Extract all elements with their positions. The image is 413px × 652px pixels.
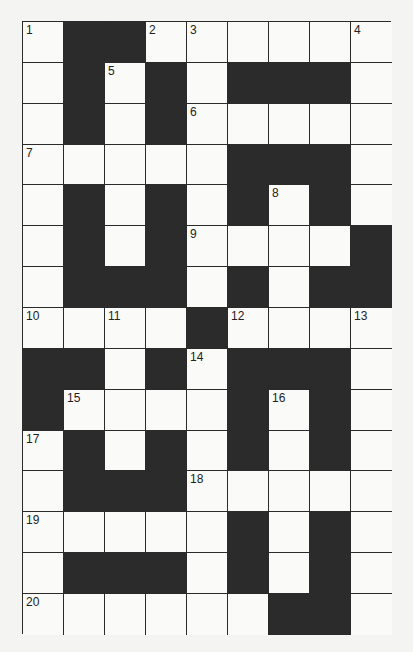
clue-number: 18 bbox=[190, 473, 203, 485]
answer-cell[interactable] bbox=[269, 553, 310, 594]
answer-cell[interactable] bbox=[228, 226, 269, 267]
answer-cell[interactable] bbox=[105, 349, 146, 390]
answer-cell[interactable] bbox=[187, 185, 228, 226]
answer-cell[interactable] bbox=[23, 553, 64, 594]
answer-cell[interactable]: 2 bbox=[146, 22, 187, 63]
answer-cell[interactable] bbox=[187, 63, 228, 104]
answer-cell[interactable] bbox=[351, 594, 392, 635]
answer-cell[interactable] bbox=[23, 104, 64, 145]
answer-cell[interactable] bbox=[228, 104, 269, 145]
clue-number: 17 bbox=[26, 433, 39, 445]
answer-cell[interactable]: 11 bbox=[105, 308, 146, 349]
answer-cell[interactable] bbox=[105, 390, 146, 431]
answer-cell[interactable] bbox=[105, 104, 146, 145]
answer-cell[interactable] bbox=[351, 63, 392, 104]
answer-cell[interactable] bbox=[187, 145, 228, 186]
answer-cell[interactable] bbox=[310, 471, 351, 512]
answer-cell[interactable] bbox=[64, 145, 105, 186]
black-cell bbox=[310, 431, 351, 472]
answer-cell[interactable]: 6 bbox=[187, 104, 228, 145]
answer-cell[interactable] bbox=[269, 512, 310, 553]
answer-cell[interactable] bbox=[310, 308, 351, 349]
answer-cell[interactable] bbox=[187, 267, 228, 308]
black-cell bbox=[187, 308, 228, 349]
answer-cell[interactable]: 12 bbox=[228, 308, 269, 349]
answer-cell[interactable] bbox=[351, 145, 392, 186]
answer-cell[interactable] bbox=[23, 226, 64, 267]
answer-cell[interactable] bbox=[146, 308, 187, 349]
answer-cell[interactable]: 14 bbox=[187, 349, 228, 390]
answer-cell[interactable]: 4 bbox=[351, 22, 392, 63]
answer-cell[interactable]: 17 bbox=[23, 431, 64, 472]
answer-cell[interactable] bbox=[310, 226, 351, 267]
answer-cell[interactable] bbox=[105, 512, 146, 553]
clue-number: 11 bbox=[108, 310, 120, 322]
black-cell bbox=[310, 145, 351, 186]
answer-cell[interactable] bbox=[228, 22, 269, 63]
answer-cell[interactable] bbox=[146, 594, 187, 635]
answer-cell[interactable] bbox=[269, 104, 310, 145]
answer-cell[interactable] bbox=[105, 185, 146, 226]
answer-cell[interactable] bbox=[351, 471, 392, 512]
answer-cell[interactable] bbox=[146, 390, 187, 431]
answer-cell[interactable]: 10 bbox=[23, 308, 64, 349]
answer-cell[interactable] bbox=[228, 594, 269, 635]
answer-cell[interactable] bbox=[269, 471, 310, 512]
answer-cell[interactable] bbox=[105, 431, 146, 472]
answer-cell[interactable] bbox=[187, 512, 228, 553]
answer-cell[interactable] bbox=[146, 512, 187, 553]
answer-cell[interactable]: 3 bbox=[187, 22, 228, 63]
black-cell bbox=[105, 553, 146, 594]
answer-cell[interactable]: 20 bbox=[23, 594, 64, 635]
answer-cell[interactable]: 8 bbox=[269, 185, 310, 226]
black-cell bbox=[228, 431, 269, 472]
crossword-grid: 1234567891011121314151617181920 bbox=[22, 21, 391, 634]
answer-cell[interactable] bbox=[187, 431, 228, 472]
answer-cell[interactable] bbox=[269, 308, 310, 349]
answer-cell[interactable] bbox=[105, 594, 146, 635]
answer-cell[interactable] bbox=[269, 267, 310, 308]
answer-cell[interactable] bbox=[23, 185, 64, 226]
answer-cell[interactable] bbox=[228, 471, 269, 512]
answer-cell[interactable] bbox=[105, 226, 146, 267]
answer-cell[interactable] bbox=[23, 471, 64, 512]
answer-cell[interactable] bbox=[310, 22, 351, 63]
answer-cell[interactable] bbox=[187, 594, 228, 635]
answer-cell[interactable] bbox=[351, 431, 392, 472]
answer-cell[interactable] bbox=[64, 594, 105, 635]
answer-cell[interactable]: 5 bbox=[105, 63, 146, 104]
answer-cell[interactable]: 9 bbox=[187, 226, 228, 267]
answer-cell[interactable]: 1 bbox=[23, 22, 64, 63]
answer-cell[interactable]: 19 bbox=[23, 512, 64, 553]
answer-cell[interactable] bbox=[269, 431, 310, 472]
black-cell bbox=[228, 349, 269, 390]
black-cell bbox=[269, 594, 310, 635]
answer-cell[interactable] bbox=[269, 226, 310, 267]
answer-cell[interactable]: 16 bbox=[269, 390, 310, 431]
answer-cell[interactable] bbox=[351, 512, 392, 553]
answer-cell[interactable] bbox=[64, 512, 105, 553]
answer-cell[interactable] bbox=[351, 553, 392, 594]
answer-cell[interactable] bbox=[269, 22, 310, 63]
answer-cell[interactable] bbox=[105, 145, 146, 186]
answer-cell[interactable] bbox=[64, 308, 105, 349]
answer-cell[interactable]: 13 bbox=[351, 308, 392, 349]
black-cell bbox=[105, 471, 146, 512]
black-cell bbox=[23, 349, 64, 390]
clue-number: 9 bbox=[190, 228, 197, 240]
answer-cell[interactable] bbox=[187, 553, 228, 594]
answer-cell[interactable] bbox=[351, 349, 392, 390]
answer-cell[interactable] bbox=[187, 390, 228, 431]
answer-cell[interactable] bbox=[146, 145, 187, 186]
answer-cell[interactable]: 18 bbox=[187, 471, 228, 512]
answer-cell[interactable] bbox=[351, 185, 392, 226]
answer-cell[interactable] bbox=[23, 267, 64, 308]
answer-cell[interactable] bbox=[351, 104, 392, 145]
answer-cell[interactable] bbox=[23, 63, 64, 104]
answer-cell[interactable]: 15 bbox=[64, 390, 105, 431]
black-cell bbox=[64, 471, 105, 512]
answer-cell[interactable] bbox=[310, 104, 351, 145]
answer-cell[interactable] bbox=[351, 390, 392, 431]
black-cell bbox=[310, 390, 351, 431]
answer-cell[interactable]: 7 bbox=[23, 145, 64, 186]
